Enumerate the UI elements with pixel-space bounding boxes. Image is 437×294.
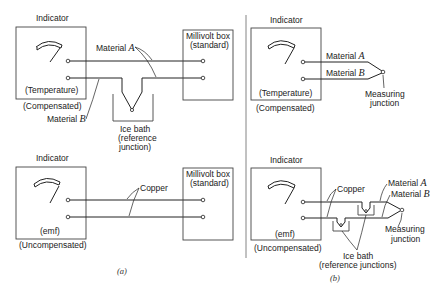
material-a-label: Material A <box>326 50 366 61</box>
panel-b-caption: (b) <box>330 273 340 283</box>
indicator-title: Indicator <box>36 153 69 163</box>
indicator-label: (Temperature) <box>259 88 313 98</box>
indicator-sublabel: (Uncompensated) <box>254 243 322 253</box>
indicator-title: Indicator <box>270 15 303 25</box>
millivolt-sublabel: (standard) <box>190 178 229 188</box>
indicator-title: Indicator <box>36 13 69 23</box>
indicator-label: (emf) <box>275 229 295 239</box>
measuring-junction-sublabel: junction <box>369 98 400 108</box>
meter-dial-icon <box>36 41 62 62</box>
material-a-label: Material A <box>388 177 428 188</box>
measuring-junction-label: Measuring <box>385 224 425 234</box>
meter-dial-icon <box>268 181 295 204</box>
material-b-label: Material B <box>326 67 365 78</box>
material-b-label: Material B <box>47 113 86 124</box>
copper-label: Copper <box>140 183 168 193</box>
panel-a-caption: (a) <box>117 266 127 276</box>
indicator-title: Indicator <box>270 155 303 165</box>
millivolt-sublabel: (standard) <box>190 40 229 50</box>
thermocouple-diagram: Indicator (Temperature) (Compensated) Ic… <box>0 0 437 294</box>
material-b-label: Material B <box>391 188 430 199</box>
copper-label: Copper <box>337 184 365 194</box>
panel-a-top: Indicator (Temperature) (Compensated) Ic… <box>16 13 233 152</box>
measuring-junction-sublabel: junction <box>390 234 421 244</box>
panel-a-bottom: Indicator (emf) (Uncompensated) Copper M… <box>16 153 233 276</box>
indicator-sublabel: (Uncompensated) <box>19 240 87 250</box>
panel-b-top: Indicator (Temperature) (Compensated) Ma… <box>251 15 405 113</box>
ice-bath-sublabel-2: junction) <box>118 142 151 152</box>
panel-b-bottom: Indicator (emf) (Uncompensated) Copper M… <box>251 155 430 283</box>
indicator-label: (emf) <box>40 226 60 236</box>
indicator-sublabel: (Compensated) <box>256 103 315 113</box>
material-a-label: Material A <box>96 42 136 53</box>
meter-dial-icon <box>34 178 60 203</box>
indicator-sublabel: (Compensated) <box>23 101 82 111</box>
indicator-label: (Temperature) <box>25 85 79 95</box>
meter-dial-icon <box>268 41 295 64</box>
ice-bath-sublabel: (reference junctions) <box>319 260 397 270</box>
